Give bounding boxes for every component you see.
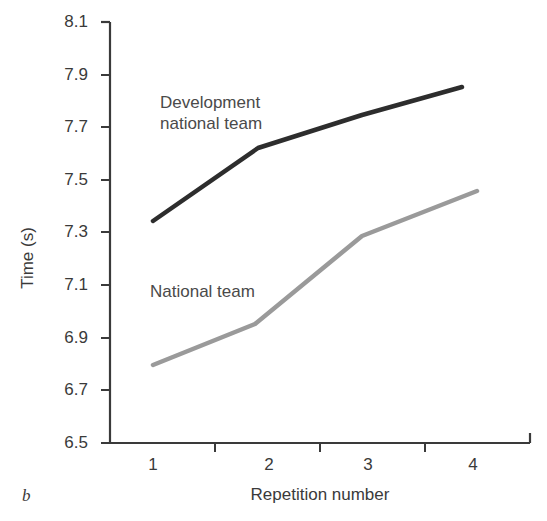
y-tick-label-7-1: 7.1 — [42, 275, 88, 295]
y-tick-label-7-9: 7.9 — [42, 65, 88, 85]
y-axis-title: Time (s) — [18, 213, 38, 303]
y-tick-label-6-7: 6.7 — [42, 380, 88, 400]
y-tick-label-7-5: 7.5 — [42, 170, 88, 190]
series-annotation-development-national-team: Development national team — [160, 92, 262, 135]
y-tick-label-7-7: 7.7 — [42, 117, 88, 137]
y-tick-label-6-5: 6.5 — [42, 433, 88, 453]
y-tick-label-8-1: 8.1 — [42, 12, 88, 32]
series-annotation-national-team: National team — [150, 281, 255, 302]
panel-label: b — [22, 486, 31, 506]
x-axis-ticks — [215, 443, 425, 452]
x-tick-label-2: 2 — [254, 455, 284, 475]
x-tick-label-1: 1 — [138, 455, 168, 475]
series-line-national-team — [153, 191, 477, 365]
x-axis-title: Repetition number — [170, 485, 470, 505]
y-tick-label-6-9: 6.9 — [42, 328, 88, 348]
y-axis-ticks — [101, 75, 110, 443]
y-tick-label-7-3: 7.3 — [42, 222, 88, 242]
chart-figure: 6.5 6.7 6.9 7.1 7.3 7.5 7.7 7.9 8.1 1 2 … — [0, 0, 547, 521]
x-tick-label-4: 4 — [458, 455, 488, 475]
x-tick-label-3: 3 — [353, 455, 383, 475]
